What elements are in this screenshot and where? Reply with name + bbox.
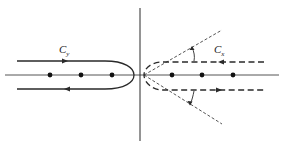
label-cy-sub: y xyxy=(66,50,69,58)
left-bottom-arrow-icon xyxy=(64,87,70,92)
pole-dot xyxy=(48,73,53,78)
contour-diagram: Cy Cx xyxy=(0,0,284,149)
lower-asymptote xyxy=(144,75,222,124)
right-bottom-arrow-icon xyxy=(216,88,222,93)
diagram-svg xyxy=(0,0,284,149)
right-top-arrow-icon xyxy=(218,60,224,65)
pole-dot xyxy=(170,73,175,78)
pole-dot xyxy=(200,73,205,78)
pole-dot xyxy=(110,73,115,78)
upper-asymptote xyxy=(144,30,222,75)
pole-dot xyxy=(231,73,236,78)
left-top-arrow-icon xyxy=(62,59,68,64)
label-cx-sub: x xyxy=(221,50,224,58)
label-cy: Cy xyxy=(59,44,69,58)
pole-dot xyxy=(79,73,84,78)
label-cx: Cx xyxy=(214,44,224,58)
